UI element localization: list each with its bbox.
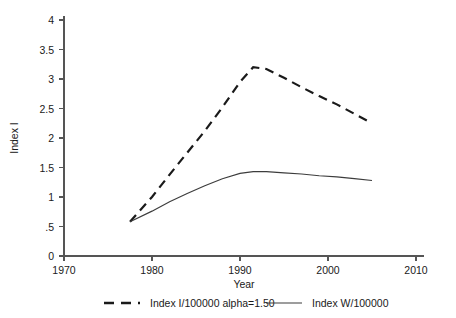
y-tick-label: 3 — [48, 73, 54, 85]
legend-label-index-i: Index I/100000 alpha=1.50 — [150, 297, 275, 309]
y-tick-label: 3.5 — [39, 44, 54, 56]
y-tick-label: .5 — [45, 221, 54, 233]
x-tick-label: 1980 — [140, 264, 164, 276]
line-chart: 0.511.522.533.54 19701980199020002010 In… — [0, 0, 456, 318]
y-axis-title: Index I — [8, 122, 20, 154]
y-tick-label: 4 — [48, 14, 54, 26]
x-tick-label: 2010 — [404, 264, 428, 276]
y-tick-label: 2 — [48, 132, 54, 144]
x-tick-label: 2000 — [316, 264, 340, 276]
chart-container: 0.511.522.533.54 19701980199020002010 In… — [0, 0, 456, 318]
y-tick-label: 2.5 — [39, 103, 54, 115]
x-axis-ticks: 19701980199020002010 — [52, 256, 428, 276]
x-axis-title: Year — [233, 278, 255, 290]
series-index-w-line — [130, 172, 372, 222]
y-tick-label: 0 — [48, 250, 54, 262]
x-tick-label: 1970 — [52, 264, 76, 276]
chart-legend: Index I/100000 alpha=1.50 Index W/100000 — [104, 297, 389, 309]
y-axis-ticks: 0.511.522.533.54 — [39, 14, 64, 262]
x-tick-label: 1990 — [228, 264, 252, 276]
y-tick-label: 1.5 — [39, 162, 54, 174]
legend-label-index-w: Index W/100000 — [312, 297, 389, 309]
y-tick-label: 1 — [48, 191, 54, 203]
series-index-i-line — [130, 67, 372, 222]
